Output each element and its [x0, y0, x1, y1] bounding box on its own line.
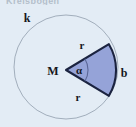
circle-sector-diagram: k M α r r b	[0, 0, 136, 127]
geometry-figure: Kreisbogen k M α r r b	[0, 0, 136, 127]
label-arc-b: b	[121, 66, 128, 80]
label-center-m: M	[47, 64, 58, 78]
label-angle-alpha: α	[76, 64, 83, 76]
sector-shape	[66, 44, 116, 96]
label-radius-top: r	[80, 39, 85, 51]
label-radius-bottom: r	[76, 91, 81, 103]
label-circle-k: k	[24, 11, 31, 25]
